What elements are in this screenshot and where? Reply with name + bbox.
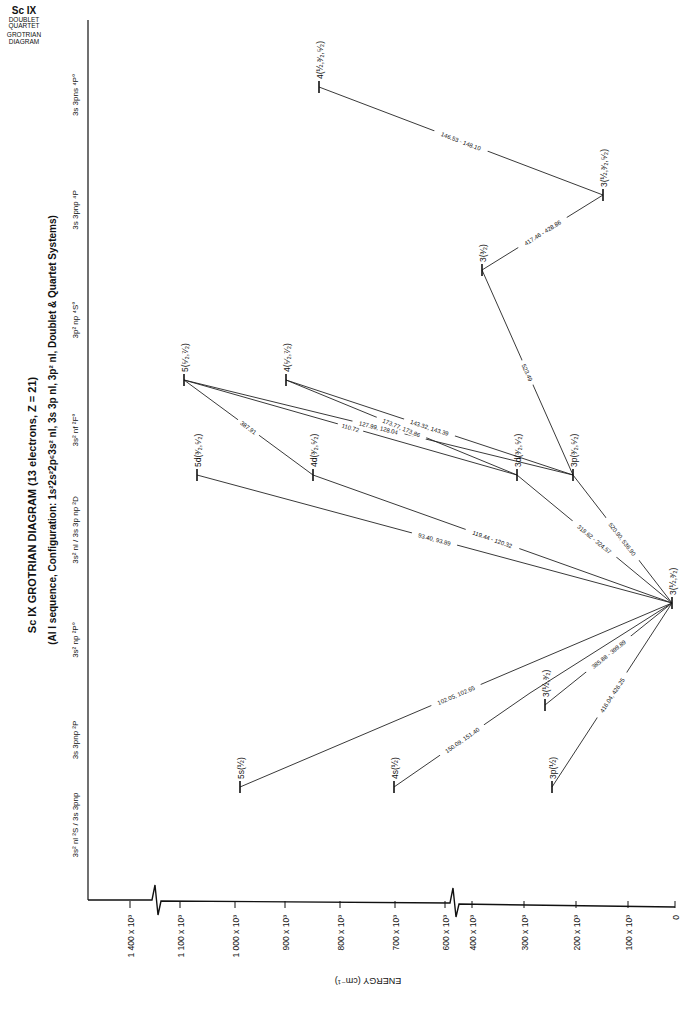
axis-tick-label: 900 x 10³: [281, 915, 291, 951]
level-label: 3d(³⁄₂,⁵⁄₂): [513, 434, 523, 467]
column-header: 3s² np ²P°: [71, 622, 80, 658]
level-label: 4d(³⁄₂,⁵⁄₂): [309, 434, 319, 467]
level-label: 3(³⁄₂): [478, 244, 488, 262]
level-label: 3(½,³⁄₂): [668, 567, 678, 595]
column-header: 3s² nf ²F°: [71, 414, 80, 447]
diagram-subtitle: (Al I sequence, Configuration: 1s²2s²2p⁶…: [47, 215, 58, 645]
titles: Sc IX GROTRIAN DIAGRAM (13 electrons, Z …: [26, 215, 58, 645]
level-label: 3p(³⁄₂,⁵⁄₂): [569, 434, 579, 467]
levels: 3(½,³⁄₂)5s(½)4s(½)3p(½)3(½,³⁄₂)5d(³⁄₂,⁵⁄…: [180, 41, 678, 793]
level-label: 3(½,³⁄₂,⁵⁄₂): [599, 149, 609, 187]
axis-tick-label: 1 100 x 10³: [176, 915, 186, 958]
axis-tick-label: 600 x 10³: [441, 915, 451, 951]
axis-label: ENERGY (cm⁻¹): [335, 976, 401, 986]
axis-tick-label: 200 x 10³: [572, 915, 582, 951]
level-label: 4(⁵⁄₂,⁷⁄₂): [282, 343, 292, 372]
level-label: 4s(½): [390, 757, 400, 779]
axis-tick-label: 0: [671, 915, 681, 920]
level-label: 5s(½): [236, 757, 246, 779]
axis-tick-label: 300 x 10³: [520, 915, 530, 951]
axis-tick-label: 1 000 x 10³: [231, 915, 241, 958]
diagram-title: Sc IX GROTRIAN DIAGRAM (13 electrons, Z …: [26, 376, 38, 633]
transition-wavelength: 102.05, 102.65: [437, 685, 477, 706]
axis-frame: [88, 20, 675, 917]
level-label: 3p(½): [548, 757, 558, 779]
transition-wavelength: 146.53 - 148.10: [440, 131, 482, 152]
transition-wavelength: 416.04, 426.25: [599, 676, 626, 713]
column-header: 3s 3pnp ²P: [71, 721, 80, 760]
column-header: 3s 3pnp ⁴P: [71, 190, 80, 229]
axis-tick-label: 800 x 10³: [336, 915, 346, 951]
energy-axis: 1 400 x 10³1 100 x 10³1 000 x 10³900 x 1…: [126, 901, 681, 958]
axis-tick-label: 100 x 10³: [624, 915, 634, 951]
transition-wavelength: 318.62 - 324.57: [576, 524, 613, 556]
transitions: 102.05, 102.65150.09, 151.40416.04, 426.…: [184, 87, 672, 787]
column-headers: 3s² nl ²S / 3s 3pnp3s 3pnp ²P3s² np ²P°3…: [71, 74, 80, 858]
level-label: 5(⁵⁄₂,⁷⁄₂): [180, 343, 190, 372]
transition-wavelength: 119.44 - 120.32: [472, 530, 514, 550]
level-label: 4(½,³⁄₂,⁵⁄₂): [315, 41, 325, 79]
transition-wavelength: 417.46 - 428.86: [523, 219, 562, 247]
transition-line: [394, 603, 672, 787]
column-header: 3s² nl / 3s 3p np ²D: [71, 496, 80, 564]
column-header: 3s 3pns ⁴P°: [71, 74, 80, 116]
transition-wavelength: 150.09, 151.40: [444, 726, 481, 754]
column-header: 3s² nl ²S / 3s 3pnp: [71, 792, 80, 857]
axis-tick-label: 700 x 10³: [391, 915, 401, 951]
column-header: 3p² np ⁴S°: [71, 302, 80, 339]
transition-wavelength: 387.91: [239, 420, 258, 436]
axis-tick-label: 1 400 x 10³: [126, 915, 136, 958]
level-label: 3(½,³⁄₂): [541, 669, 551, 697]
grotrian-diagram: Sc IX GROTRIAN DIAGRAM (13 electrons, Z …: [0, 0, 692, 1010]
axis-tick-label: 400 x 10³: [468, 915, 478, 951]
level-label: 5d(³⁄₂,⁵⁄₂): [193, 434, 203, 467]
